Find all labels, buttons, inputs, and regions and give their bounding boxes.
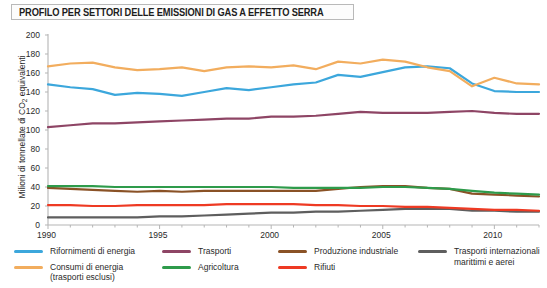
line-chart-plot bbox=[0, 26, 547, 238]
legend-color-swatch bbox=[418, 250, 447, 253]
legend-item[interactable]: Rifiuti bbox=[278, 262, 398, 273]
legend-color-swatch bbox=[14, 266, 43, 269]
legend-item[interactable]: Agricoltura bbox=[162, 262, 239, 273]
legend-item-label: Consumi di energia (trasporti esclusi) bbox=[50, 262, 123, 283]
legend-item-label: Trasporti bbox=[198, 246, 231, 257]
legend-item-label: Agricoltura bbox=[198, 262, 239, 273]
legend-color-swatch bbox=[162, 250, 191, 253]
legend-column: TrasportiAgricoltura bbox=[162, 246, 239, 277]
series-line bbox=[48, 111, 539, 127]
legend-item-label: Rifornimenti di energia bbox=[50, 246, 135, 257]
series-line bbox=[48, 60, 539, 87]
legend-column: Rifornimenti di energiaConsumi di energi… bbox=[14, 246, 135, 288]
legend-column: Trasporti internazionali marittimi e aer… bbox=[418, 246, 540, 272]
legend-item-label: Trasporti internazionali marittimi e aer… bbox=[454, 246, 540, 267]
chart-container: Milioni di tonnellate di CO2 equivalenti… bbox=[0, 26, 547, 238]
legend-item[interactable]: Trasporti bbox=[162, 246, 239, 257]
legend-color-swatch bbox=[162, 266, 191, 269]
legend-item[interactable]: Rifornimenti di energia bbox=[14, 246, 135, 257]
chart-title-box: PROFILO PER SETTORI DELLE EMISSIONI DI G… bbox=[11, 4, 354, 20]
legend-item[interactable]: Consumi di energia (trasporti esclusi) bbox=[14, 262, 135, 283]
legend-item[interactable]: Produzione industriale bbox=[278, 246, 398, 257]
legend-color-swatch bbox=[278, 250, 307, 253]
chart-legend: Rifornimenti di energiaConsumi di energi… bbox=[0, 246, 547, 288]
page-title: PROFILO PER SETTORI DELLE EMISSIONI DI G… bbox=[19, 7, 324, 18]
legend-item-label: Produzione industriale bbox=[314, 246, 398, 257]
legend-item-label: Rifiuti bbox=[314, 262, 335, 273]
legend-color-swatch bbox=[278, 266, 307, 269]
legend-column: Produzione industrialeRifiuti bbox=[278, 246, 398, 277]
series-line bbox=[48, 209, 539, 218]
legend-color-swatch bbox=[14, 250, 43, 253]
legend-item[interactable]: Trasporti internazionali marittimi e aer… bbox=[418, 246, 540, 267]
